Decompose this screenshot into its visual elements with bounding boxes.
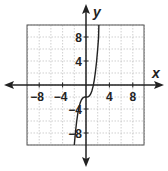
x-tick-label: −8 — [30, 90, 44, 104]
y-axis-label: y — [92, 4, 102, 20]
axes — [4, 4, 164, 167]
x-axis-label: x — [151, 65, 161, 81]
y-tick-label: 4 — [75, 55, 82, 69]
x-tick-label: 4 — [106, 90, 113, 104]
y-tick-label: 8 — [75, 31, 82, 45]
function-graph: −8−44884−4−8 x y — [0, 0, 168, 171]
x-tick-label: −4 — [54, 90, 68, 104]
x-tick-label: 8 — [129, 90, 136, 104]
